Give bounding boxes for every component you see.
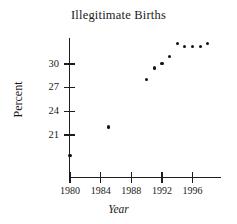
x-tick-mark (131, 172, 132, 183)
x-tick-mark (100, 172, 101, 183)
y-tick-mark (64, 134, 75, 135)
x-tick-mark (192, 172, 193, 183)
x-tick-mark (69, 172, 70, 183)
y-axis-title: Percent (11, 60, 26, 140)
data-point (206, 42, 209, 45)
plot-area: 21242730 19801984198819921996 (0, 0, 237, 224)
data-point (176, 42, 179, 45)
data-point (199, 45, 202, 48)
data-point (191, 45, 194, 48)
y-axis-line (69, 38, 70, 178)
chart-page: Illegitimate Births 21242730 19801984198… (0, 0, 237, 224)
x-axis-title: Year (0, 203, 237, 215)
data-point (168, 55, 171, 58)
x-tick-mark (161, 172, 162, 183)
data-point (145, 78, 148, 81)
data-point (107, 125, 110, 128)
y-tick-mark (64, 87, 75, 88)
y-tick-mark (64, 63, 75, 64)
data-point (160, 62, 163, 65)
data-point (153, 66, 156, 69)
data-point (183, 45, 186, 48)
data-point (68, 154, 71, 157)
x-tick-label: 1996 (171, 186, 215, 196)
x-axis-line (69, 177, 221, 178)
y-tick-mark (64, 111, 75, 112)
